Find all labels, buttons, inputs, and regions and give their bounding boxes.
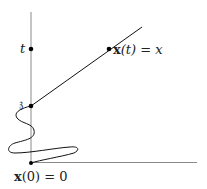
point-z-dot [29,104,34,109]
point-origin-dot [29,161,33,165]
label-origin: x(0) = 0 [14,169,68,184]
trajectory-line [31,27,142,106]
point-xt-dot [107,47,112,52]
point-t-dot [29,47,34,52]
diagram-canvas: t 𝔷 x(t) = x x(0) = 0 [0,0,207,189]
label-t: t [20,41,26,56]
label-origin-rest: (0) = 0 [22,169,68,184]
wiggly-curve [9,106,78,163]
label-xt-rest: (t) = x [121,42,164,57]
label-z: 𝔷 [19,97,23,111]
label-xt: x(t) = x [113,42,163,57]
